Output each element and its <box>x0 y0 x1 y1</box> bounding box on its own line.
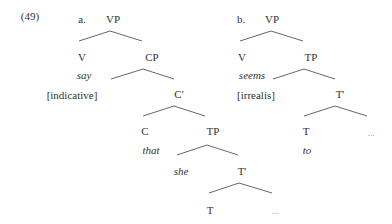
tree-a-label: a. <box>78 13 86 25</box>
tree-a-cbar-node: C' <box>174 88 183 100</box>
tree-branches <box>0 0 392 224</box>
tree-b-tbar-node: T' <box>336 88 345 100</box>
tree-b-v-node: V <box>238 51 246 63</box>
tree-b-ellipsis: ... <box>368 127 375 139</box>
tree-a-v-word: say <box>77 69 92 81</box>
tree-b-tp-node: TP <box>305 51 318 63</box>
tree-a-c-word: that <box>142 144 159 156</box>
tree-a-ellipsis: ... <box>272 205 279 217</box>
tree-a-t-node: T <box>207 204 214 216</box>
tree-a-c-node: C <box>141 125 148 137</box>
tree-a-v-node: V <box>78 51 86 63</box>
tree-b-t-word: to <box>303 144 312 156</box>
example-number: (49) <box>21 10 39 22</box>
tree-a-tbar-node: T' <box>238 165 247 177</box>
tree-b-label: b. <box>237 13 245 25</box>
tree-a-cp-node: CP <box>145 51 158 63</box>
tree-b-v-word: seems <box>239 69 265 81</box>
tree-a-v-feature: [indicative] <box>47 89 98 101</box>
tree-b-v-feature: [irrealis] <box>237 89 275 101</box>
tree-a-spec: she <box>174 165 189 177</box>
tree-a-tp-node: TP <box>207 125 220 137</box>
tree-a-vp-node: VP <box>106 13 120 25</box>
tree-b-t-node: T <box>303 125 310 137</box>
tree-b-vp-node: VP <box>265 13 279 25</box>
